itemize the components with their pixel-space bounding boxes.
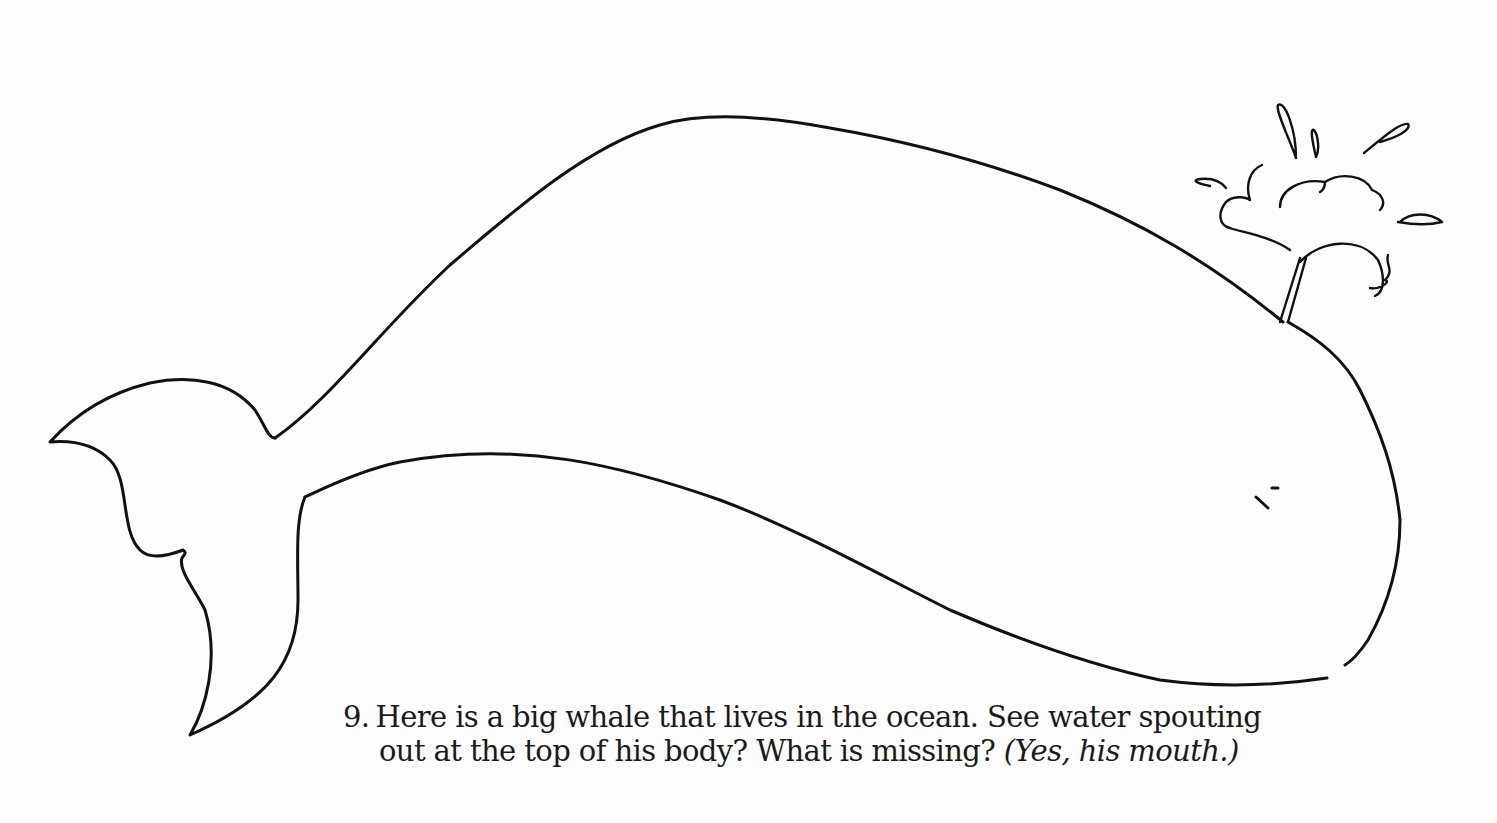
spout-stream [1280,258,1306,322]
water-spout-icon [1196,104,1442,296]
caption-line-1: Here is a big whale that lives in the oc… [375,700,1261,734]
whale-back-outline [275,117,1283,438]
whale-belly-outline [305,454,1327,685]
whale-eye-icon [1256,488,1278,508]
caption-number: 9. [343,700,369,734]
caption-question: out at the top of his body? What is miss… [379,734,995,768]
coloring-page: 9.Here is a big whale that lives in the … [0,0,1497,823]
caption-answer: (Yes, his mouth.) [1004,734,1239,768]
whale-head-outline [1288,322,1400,665]
caption-line-2: out at the top of his body? What is miss… [343,734,1303,768]
whale-tail-outline [50,380,305,735]
caption: 9.Here is a big whale that lives in the … [343,700,1303,768]
